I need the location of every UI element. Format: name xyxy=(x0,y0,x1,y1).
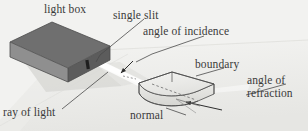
label-boundary: boundary xyxy=(195,58,239,71)
label-light-box: light box xyxy=(44,3,86,16)
label-angle-of-refraction-line1: angle of xyxy=(247,74,285,87)
label-angle-of-incidence: angle of incidence xyxy=(143,25,229,38)
figure-container: light box single slit angle of incidence… xyxy=(0,0,308,131)
label-angle-of-refraction-line2: refraction xyxy=(247,87,293,100)
label-normal: normal xyxy=(130,109,163,122)
label-ray-of-light: ray of light xyxy=(3,106,55,119)
label-single-slit: single slit xyxy=(113,9,159,22)
